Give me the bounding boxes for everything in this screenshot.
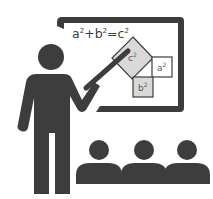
student-3 <box>164 140 210 184</box>
teacher-presentation-illustration: a2+b2=c2 c2 a2 b2 <box>0 0 213 199</box>
pythagoras-diagram: c2 a2 b2 <box>112 37 172 97</box>
pointer-stick <box>86 51 128 88</box>
student-2 <box>121 140 167 184</box>
student-1 <box>76 140 122 184</box>
students <box>76 140 210 184</box>
formula-text: a2+b2=c2 <box>72 26 129 41</box>
teacher-head <box>38 44 64 70</box>
